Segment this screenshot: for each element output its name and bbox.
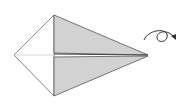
turn-over-arrow-icon	[144, 31, 176, 42]
kite-shape	[14, 15, 148, 96]
white-left-flap	[14, 15, 54, 96]
origami-diagram	[0, 0, 186, 110]
shaded-bottom-flap	[54, 56, 148, 96]
shaded-top-flap	[54, 15, 148, 55]
